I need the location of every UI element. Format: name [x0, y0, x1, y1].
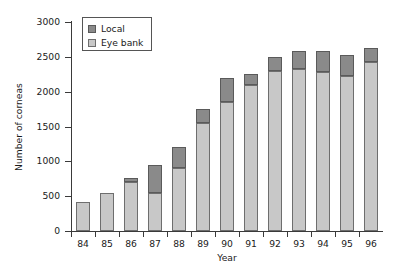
bar-segment-eye-bank [364, 62, 378, 231]
bar-group-90 [220, 78, 234, 231]
bar-group-87 [148, 165, 162, 231]
bar-segment-local [172, 147, 186, 167]
legend-label-eye-bank: Eye bank [101, 38, 143, 48]
x-tick-mark [71, 232, 72, 237]
legend-label-local: Local [101, 24, 125, 34]
bar-segment-local [292, 51, 306, 69]
bar-segment-local [244, 74, 258, 85]
y-tick-label-text: 2000 [26, 87, 60, 97]
chart-figure: Number of corneas 0500100015002000250030… [0, 0, 412, 270]
bar-segment-eye-bank [100, 193, 114, 231]
y-tick-label: 2500 [26, 52, 60, 62]
bar-group-93 [292, 51, 306, 231]
x-tick-label: 96 [356, 238, 386, 250]
x-tick-mark [311, 232, 312, 237]
y-tick-label-text: 0 [26, 226, 60, 236]
bar-segment-local [220, 78, 234, 102]
bar-group-85 [100, 193, 114, 231]
bar-segment-eye-bank [340, 76, 354, 231]
y-tick-label-text: 3000 [26, 17, 60, 27]
bar-segment-eye-bank [124, 182, 138, 231]
y-axis-title-text: Number of corneas [13, 83, 24, 171]
y-axis-line [71, 21, 72, 232]
y-tick-mark [65, 196, 71, 197]
y-tick-label: 500 [26, 191, 60, 201]
bar-group-96 [364, 48, 378, 231]
x-tick-mark [215, 232, 216, 237]
y-tick-label: 1000 [26, 156, 60, 166]
y-tick-mark [65, 92, 71, 93]
legend: Local Eye bank [82, 17, 152, 51]
y-tick-label-text: 2500 [26, 52, 60, 62]
bar-segment-local [196, 109, 210, 123]
x-tick-mark [263, 232, 264, 237]
bar-segment-local [364, 48, 378, 62]
y-tick-label-text: 1500 [26, 122, 60, 132]
bar-segment-eye-bank [244, 85, 258, 231]
y-tick-label: 1500 [26, 122, 60, 132]
bar-segment-eye-bank [196, 123, 210, 231]
bar-segment-local [340, 55, 354, 76]
y-tick-label-text: 1000 [26, 156, 60, 166]
x-tick-mark [191, 232, 192, 237]
bar-group-94 [316, 51, 330, 231]
x-tick-mark [239, 232, 240, 237]
bar-group-91 [244, 74, 258, 231]
bar-segment-local [316, 51, 330, 73]
bar-group-86 [124, 178, 138, 231]
y-tick-label: 2000 [26, 87, 60, 97]
y-tick-mark [65, 22, 71, 23]
y-tick-label: 0 [26, 226, 60, 236]
bar-segment-eye-bank [172, 168, 186, 231]
bar-group-95 [340, 55, 354, 231]
y-tick-label: 3000 [26, 17, 60, 27]
x-axis-line [71, 231, 383, 232]
bar-group-88 [172, 147, 186, 231]
x-tick-mark [143, 232, 144, 237]
y-tick-mark [65, 127, 71, 128]
x-tick-mark [95, 232, 96, 237]
y-tick-label-text: 500 [26, 191, 60, 201]
y-tick-mark [65, 161, 71, 162]
x-tick-mark [359, 232, 360, 237]
y-axis-title: Number of corneas [10, 22, 26, 232]
bar-segment-eye-bank [220, 102, 234, 231]
x-axis-title: Year [71, 252, 383, 263]
x-tick-mark [335, 232, 336, 237]
bar-segment-eye-bank [268, 71, 282, 231]
bar-segment-eye-bank [76, 202, 90, 231]
bar-segment-local [148, 165, 162, 193]
x-tick-mark [167, 232, 168, 237]
bar-segment-eye-bank [292, 69, 306, 231]
x-tick-mark [287, 232, 288, 237]
bar-group-92 [268, 57, 282, 231]
x-tick-mark [119, 232, 120, 237]
bar-group-84 [76, 202, 90, 231]
bar-group-89 [196, 109, 210, 231]
bar-segment-eye-bank [148, 193, 162, 231]
bar-segment-eye-bank [316, 72, 330, 231]
legend-entry-eye-bank: Eye bank [88, 36, 143, 49]
y-tick-mark [65, 57, 71, 58]
legend-swatch-eye-bank-icon [88, 39, 96, 47]
legend-entry-local: Local [88, 22, 125, 35]
bar-segment-local [268, 57, 282, 71]
legend-swatch-local-icon [88, 25, 96, 33]
